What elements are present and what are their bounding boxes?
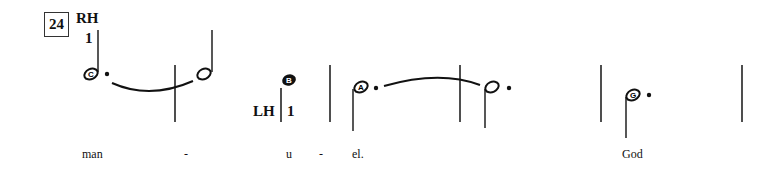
lyric: man [82, 147, 103, 162]
dot [374, 86, 378, 90]
lyric: - [319, 147, 323, 162]
note-a: A [353, 80, 379, 131]
lyric: God [622, 147, 643, 162]
note-c: C [83, 30, 110, 81]
lyric: u [286, 147, 292, 162]
dot [647, 93, 651, 97]
dot [507, 86, 511, 90]
note-dotted-half [484, 80, 512, 128]
svg-text:B: B [286, 76, 292, 85]
svg-text:C: C [88, 70, 94, 79]
note-g: G [625, 88, 652, 138]
dot [105, 72, 109, 76]
lyric: - [184, 147, 188, 162]
note-half [196, 30, 213, 81]
tie [384, 78, 480, 86]
svg-text:A: A [358, 83, 364, 92]
lyric: el. [352, 147, 364, 162]
notation: C B A G [0, 0, 783, 188]
svg-text:G: G [630, 91, 636, 100]
note-b: B [281, 72, 298, 87]
tie [112, 81, 193, 91]
